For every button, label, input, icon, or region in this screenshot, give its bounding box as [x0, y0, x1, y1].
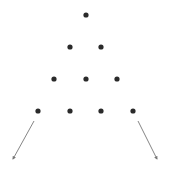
dot: [51, 76, 56, 81]
dot-rows: [35, 12, 135, 113]
dot: [35, 108, 40, 113]
dot-row-3: [51, 76, 119, 81]
dot: [114, 76, 119, 81]
triangular-dot-diagram: [0, 0, 169, 171]
dot: [67, 108, 72, 113]
dot: [130, 108, 135, 113]
left-arrow-icon: [13, 121, 34, 159]
dot-row-2: [67, 44, 103, 49]
dot-row-4: [35, 108, 135, 113]
dot: [83, 76, 88, 81]
right-arrow-icon: [138, 121, 157, 159]
dot: [98, 44, 103, 49]
dot: [83, 12, 88, 17]
continuation-arrows: [13, 121, 157, 159]
dot-row-1: [83, 12, 88, 17]
dot: [98, 108, 103, 113]
dot: [67, 44, 72, 49]
